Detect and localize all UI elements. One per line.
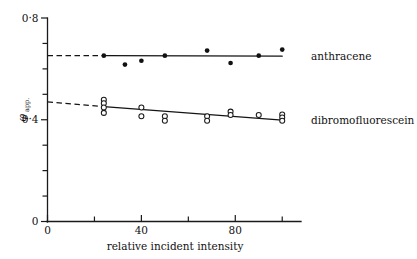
x-tick-label-40: 40 (135, 224, 148, 236)
data-point-anthracene-2 (139, 58, 144, 63)
data-point-dibromofluorescein-12 (256, 112, 261, 117)
data-point-anthracene-5 (228, 61, 233, 66)
data-point-dibromofluorescein-11 (228, 112, 233, 117)
y-tick-label-0_8: 0·8 (22, 12, 39, 24)
data-point-anthracene-4 (205, 48, 210, 53)
axes-group (47, 18, 301, 222)
data-point-anthracene-3 (163, 53, 168, 58)
figure-container: 00·40·8 04080 anthracenedibromofluoresce… (0, 0, 417, 259)
y-axis-title-subscript: app. (23, 98, 31, 112)
data-point-dibromofluorescein-2 (101, 105, 106, 110)
data-point-dibromofluorescein-4 (139, 105, 144, 110)
data-point-anthracene-7 (280, 47, 285, 52)
data-point-dibromofluorescein-3 (101, 110, 106, 115)
data-point-dibromofluorescein-15 (280, 118, 285, 123)
y-axis-title: φ app. (16, 98, 31, 122)
data-point-dibromofluorescein-9 (205, 118, 210, 123)
data-point-anthracene-6 (256, 53, 261, 58)
y-axis-title-symbol: φ (16, 114, 29, 122)
x-tick-label-80: 80 (229, 224, 242, 236)
fit-line-group (48, 56, 283, 120)
y-tick-group (41, 18, 48, 222)
y-tick-label-0: 0 (32, 215, 39, 227)
extrapolation-line-dibromofluorescein (48, 102, 104, 107)
data-point-dibromofluorescein-7 (162, 118, 167, 123)
series-label-dibromofluorescein: dibromofluorescein (311, 114, 415, 126)
fit-line-anthracene (104, 56, 282, 57)
scatter-plot: 00·40·8 04080 anthracenedibromofluoresce… (0, 0, 417, 259)
data-point-group (101, 47, 284, 123)
x-tick-label-group: 04080 (44, 224, 242, 236)
series-label-anthracene: anthracene (311, 50, 371, 62)
data-point-anthracene-1 (123, 62, 128, 67)
x-tick-group (48, 215, 283, 222)
x-axis-title: relative incident intensity (107, 240, 244, 252)
x-tick-label-0: 0 (44, 224, 51, 236)
series-label-group: anthracenedibromofluorescein (311, 50, 415, 126)
data-point-anthracene-0 (101, 53, 106, 58)
data-point-dibromofluorescein-5 (139, 114, 144, 119)
fit-line-dibromofluorescein (104, 107, 282, 120)
